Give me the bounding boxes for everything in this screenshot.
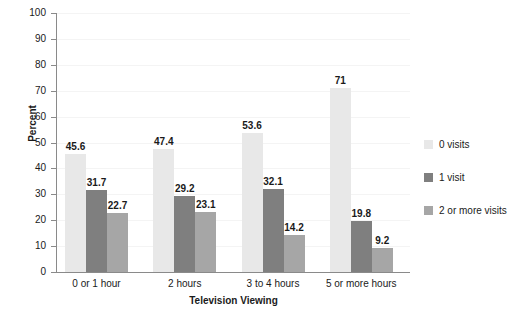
bar[interactable]: 9.2	[372, 248, 393, 272]
bar-value-label: 22.7	[108, 200, 127, 211]
bar[interactable]: 53.6	[242, 133, 263, 272]
legend-label: 0 visits	[439, 139, 470, 150]
bar[interactable]: 29.2	[174, 196, 195, 272]
bar-group: 45.631.722.7	[65, 13, 128, 272]
y-axis-tick-label: 70	[0, 86, 46, 96]
y-axis-tick-label: 80	[0, 60, 46, 70]
bar-group: 7119.89.2	[330, 13, 393, 272]
bar[interactable]: 23.1	[195, 212, 216, 272]
bar-value-label: 71	[335, 75, 346, 86]
legend-item[interactable]: 2 or more visits	[424, 203, 507, 217]
legend-item[interactable]: 1 visit	[424, 170, 507, 184]
plot-area: 45.631.722.747.429.223.153.632.114.27119…	[57, 13, 410, 272]
y-axis-tick-label: 10	[0, 241, 46, 251]
bar[interactable]: 32.1	[263, 189, 284, 272]
bar-value-label: 23.1	[196, 199, 215, 210]
y-axis-tick-label: 100	[0, 8, 46, 18]
bar-value-label: 47.4	[154, 136, 173, 147]
y-axis-tick-label: 60	[0, 112, 46, 122]
bar[interactable]: 31.7	[86, 190, 107, 272]
bar-value-label: 53.6	[242, 120, 261, 131]
x-axis-title: Television Viewing	[57, 295, 410, 306]
bar[interactable]: 22.7	[107, 213, 128, 272]
legend-swatch-icon	[424, 206, 433, 215]
bar-chart: Percent 1009080706050403020100 45.631.72…	[0, 0, 522, 319]
y-axis-tick-label: 90	[0, 34, 46, 44]
legend-label: 1 visit	[439, 172, 465, 183]
y-axis-tick-label: 40	[0, 163, 46, 173]
legend-item[interactable]: 0 visits	[424, 137, 507, 151]
y-axis-tick-label: 20	[0, 215, 46, 225]
legend-swatch-icon	[424, 140, 433, 149]
bar-group: 53.632.114.2	[242, 13, 305, 272]
bar-group: 47.429.223.1	[153, 13, 216, 272]
gridline	[57, 272, 410, 273]
bar-value-label: 31.7	[87, 177, 106, 188]
x-axis-category-label: 5 or more hours	[301, 278, 421, 289]
bar-value-label: 32.1	[263, 176, 282, 187]
legend-label: 2 or more visits	[439, 205, 507, 216]
bar[interactable]: 45.6	[65, 154, 86, 272]
legend: 0 visits1 visit2 or more visits	[424, 137, 507, 236]
y-axis-tick-label: 50	[0, 138, 46, 148]
bar-value-label: 14.2	[284, 222, 303, 233]
legend-swatch-icon	[424, 173, 433, 182]
bar-value-label: 19.8	[352, 208, 371, 219]
bar[interactable]: 71	[330, 88, 351, 272]
bar-value-label: 45.6	[66, 141, 85, 152]
y-axis-tick-label: 0	[0, 267, 46, 277]
bar[interactable]: 19.8	[351, 221, 372, 272]
bar-value-label: 29.2	[175, 183, 194, 194]
y-axis-tick-label: 30	[0, 189, 46, 199]
bar[interactable]: 47.4	[153, 149, 174, 272]
bar[interactable]: 14.2	[284, 235, 305, 272]
bar-value-label: 9.2	[375, 235, 389, 246]
